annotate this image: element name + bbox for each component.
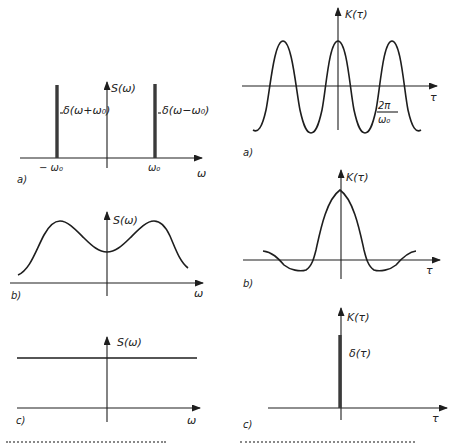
s-omega-label: S(ω) bbox=[113, 214, 138, 227]
k-tau-label: K(τ) bbox=[346, 171, 368, 184]
cosine-curve bbox=[253, 41, 421, 133]
panel-label-b-left: b) bbox=[11, 290, 21, 301]
tau-axis-label: τ bbox=[426, 264, 433, 277]
delta-right-label: δ(ω−ω₀) bbox=[162, 104, 209, 117]
panel-label-b-right: b) bbox=[243, 278, 253, 289]
delta-left-label: δ(ω+ω₀) bbox=[63, 104, 110, 117]
spectrum-panel-a: S(ω) δ(ω+ω₀) δ(ω−ω₀) − ω₀ ω₀ ω a) bbox=[17, 82, 209, 185]
k-tau-label: K(τ) bbox=[345, 8, 367, 21]
omega-axis-label: ω bbox=[194, 287, 203, 300]
panel-label-c-right: c) bbox=[243, 419, 252, 430]
period-numerator: 2π bbox=[378, 100, 391, 111]
omega-axis-label: ω bbox=[197, 167, 206, 180]
tau-axis-label: τ bbox=[432, 412, 439, 425]
spectrum-panel-c: S(ω) ω c) bbox=[16, 336, 200, 427]
correlation-panel-b: K(τ) τ b) bbox=[243, 170, 440, 289]
panel-label-c-left: c) bbox=[16, 415, 25, 426]
s-omega-label: S(ω) bbox=[111, 82, 136, 95]
correlation-panel-c: K(τ) δ(τ) τ c) bbox=[243, 308, 447, 430]
spectrum-panel-b: S(ω) ω b) bbox=[10, 212, 203, 301]
s-omega-label: S(ω) bbox=[117, 336, 142, 349]
omega-axis-label: ω bbox=[187, 414, 196, 427]
k-tau-label: K(τ) bbox=[347, 311, 369, 324]
panel-label-a-left: a) bbox=[17, 174, 27, 185]
correlation-panel-a: K(τ) τ 2π ω₀ a) bbox=[242, 8, 437, 158]
caption-right-clipped bbox=[240, 436, 425, 444]
tau-axis-label: τ bbox=[430, 91, 437, 104]
correlation-curve bbox=[263, 190, 416, 271]
tick-omega0: ω₀ bbox=[148, 162, 160, 173]
caption-left-clipped bbox=[6, 436, 176, 444]
spectrum-curve bbox=[18, 221, 188, 275]
figure-canvas: S(ω) δ(ω+ω₀) δ(ω−ω₀) − ω₀ ω₀ ω a) S(ω) ω… bbox=[0, 0, 455, 444]
delta-tau-label: δ(τ) bbox=[349, 347, 371, 360]
period-denominator: ω₀ bbox=[378, 114, 390, 125]
panel-label-a-right: a) bbox=[243, 147, 253, 158]
tick-minus-omega0: − ω₀ bbox=[39, 162, 63, 173]
